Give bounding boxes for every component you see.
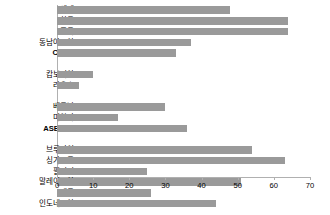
x-tick-label: 10 [89, 181, 97, 190]
bar-track [57, 145, 310, 156]
x-tick-label: 20 [125, 181, 133, 190]
x-tick-label: 70 [306, 181, 314, 190]
chart-row: CLMV [0, 48, 330, 59]
bar [57, 103, 165, 110]
chart-row [0, 134, 330, 145]
bar-track [57, 16, 310, 27]
bar-track [57, 48, 310, 59]
chart-row: 베트남 [0, 102, 330, 113]
chart-row: 중국 [0, 27, 330, 38]
x-tick-mark [57, 177, 58, 180]
x-tick-label: 40 [197, 181, 205, 190]
bar-track [57, 70, 310, 81]
x-tick-mark [310, 177, 311, 180]
bar [57, 168, 147, 175]
bar [57, 6, 230, 13]
bar-track [57, 80, 310, 91]
bar [57, 17, 288, 24]
chart-row: 라오스 [0, 80, 330, 91]
bar [57, 49, 176, 56]
chart-row: 세계 [0, 5, 330, 16]
bar [57, 82, 79, 89]
bar-track [57, 59, 310, 70]
bar [57, 114, 118, 121]
bar-track [57, 166, 310, 177]
bar-chart: 세계한국중국동남아시아CLMV캄보디아라오스베트남미얀마ASEAN6브루나이싱가… [0, 0, 330, 215]
chart-row: 브루나이 [0, 145, 330, 156]
x-axis-ticks: 010203040506070 [0, 177, 330, 197]
chart-row: 인도네시아 [0, 199, 330, 210]
x-tick-label: 30 [161, 181, 169, 190]
bar-track [57, 102, 310, 113]
bar [57, 200, 216, 207]
x-tick-label: 60 [270, 181, 278, 190]
bar [57, 157, 285, 164]
chart-row [0, 91, 330, 102]
bar [57, 39, 191, 46]
bar-track [57, 37, 310, 48]
bar [57, 125, 187, 132]
chart-row: 한국 [0, 16, 330, 27]
chart-row: 싱가포르 [0, 156, 330, 167]
bar [57, 71, 93, 78]
bar-track [57, 91, 310, 102]
chart-row: 필리핀 [0, 166, 330, 177]
chart-row: ASEAN6 [0, 123, 330, 134]
bar-track [57, 27, 310, 38]
bar-track [57, 199, 310, 210]
chart-row [0, 59, 330, 70]
x-tick-mark [238, 177, 239, 180]
chart-rows: 세계한국중국동남아시아CLMV캄보디아라오스베트남미얀마ASEAN6브루나이싱가… [0, 5, 330, 177]
x-tick-label: 0 [55, 181, 59, 190]
bar-track [57, 113, 310, 124]
chart-row: 미얀마 [0, 113, 330, 124]
chart-row: 캄보디아 [0, 70, 330, 81]
x-tick-label: 50 [233, 181, 241, 190]
x-tick-mark [129, 177, 130, 180]
x-tick-mark [202, 177, 203, 180]
x-tick-mark [93, 177, 94, 180]
bar [57, 28, 288, 35]
bar-track [57, 156, 310, 167]
chart-row: 동남아시아 [0, 37, 330, 48]
x-tick-mark [165, 177, 166, 180]
bar-track [57, 134, 310, 145]
x-tick-mark [274, 177, 275, 180]
bar-track [57, 5, 310, 16]
bar [57, 146, 252, 153]
bar-track [57, 123, 310, 134]
